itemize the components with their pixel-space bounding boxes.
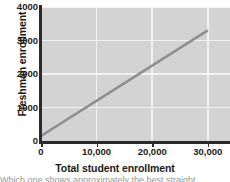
y-axis-tick-labels: 01000200030004000	[14, 0, 38, 182]
chart-figure: Freshman enrollment 01000200030004000 01…	[0, 0, 230, 182]
y-axis-tick-label: 1000	[14, 103, 38, 113]
x-axis-tick-label: 0	[38, 147, 43, 157]
y-axis-tick-label: 2000	[14, 69, 38, 79]
plot-area	[41, 7, 230, 141]
x-axis-tick-label: 30,000	[193, 147, 222, 157]
y-axis-tick-label: 0	[14, 136, 38, 146]
data-line	[41, 30, 208, 136]
y-axis-spine	[39, 5, 42, 143]
x-axis-tick-label: 20,000	[138, 147, 167, 157]
x-axis-tick-label: 10,000	[82, 147, 111, 157]
data-series-layer	[41, 7, 230, 141]
x-axis-spine	[39, 141, 230, 144]
y-axis-tick-label: 3000	[14, 36, 38, 46]
figure-caption-clipped: Which one shows approximately the best s…	[0, 175, 230, 182]
x-axis-title: Total student enrollment	[0, 162, 230, 174]
y-axis-tick-label: 4000	[14, 2, 38, 12]
